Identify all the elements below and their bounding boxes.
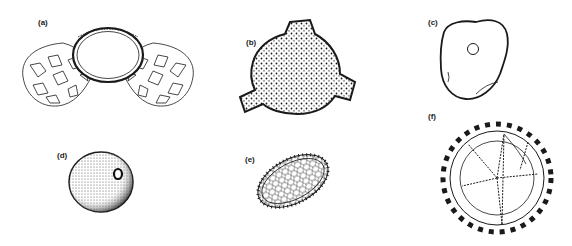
- pollen-grain-c-illustration: [438, 14, 513, 104]
- pollen-grain-b-illustration: [235, 12, 360, 127]
- pollen-grain-d-illustration: [66, 148, 136, 216]
- panel-f-label: (f): [428, 112, 436, 121]
- pollen-grain-f-illustration: [438, 112, 556, 240]
- pollen-grain-a-illustration: [18, 5, 198, 115]
- panel-c-label: (c): [428, 18, 438, 27]
- pollen-grain-e-illustration: [252, 148, 334, 214]
